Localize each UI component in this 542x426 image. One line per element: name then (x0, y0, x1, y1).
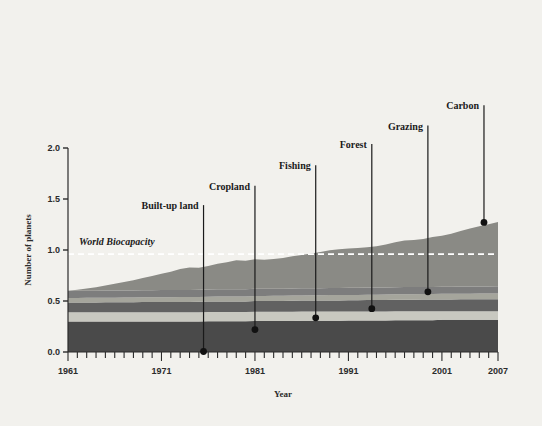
y-tick-label: 0.5 (47, 296, 60, 306)
annotation-dot-fishing (312, 314, 319, 321)
annotation-label-grazing: Grazing (388, 121, 423, 132)
annotation-dot-forest (368, 305, 375, 312)
area-band-cropland (68, 311, 498, 321)
annotation-label-fishing: Fishing (279, 160, 311, 171)
annotation-label-built-up-land: Built-up land (142, 200, 199, 211)
x-tick-label: 1991 (338, 366, 358, 376)
chart-background (0, 0, 542, 426)
y-tick-label: 1.0 (47, 245, 60, 255)
annotation-label-forest: Forest (340, 139, 368, 150)
figure-canvas: World Biocapacity 0.00.51.01.52.01961197… (0, 0, 542, 426)
world-biocapacity-label: World Biocapacity (79, 236, 155, 247)
x-tick-label: 1971 (151, 366, 171, 376)
annotation-label-carbon: Carbon (446, 100, 479, 111)
x-axis-title: Year (274, 389, 292, 399)
annotation-dot-cropland (252, 326, 259, 333)
ecological-footprint-area-chart: World Biocapacity 0.00.51.01.52.01961197… (0, 0, 542, 426)
x-tick-label: 2001 (432, 366, 452, 376)
x-tick-label: 1961 (58, 366, 78, 376)
y-tick-label: 2.0 (47, 143, 60, 153)
y-tick-label: 1.5 (47, 194, 60, 204)
y-tick-label: 0.0 (47, 347, 60, 357)
annotation-dot-carbon (481, 219, 488, 226)
y-axis-title: Number of planets (23, 214, 33, 286)
annotation-label-cropland: Cropland (209, 181, 250, 192)
area-band-built-up-land (68, 320, 498, 352)
x-tick-label: 1981 (245, 366, 265, 376)
annotation-dot-grazing (424, 288, 431, 295)
annotation-dot-built-up-land (200, 348, 207, 355)
x-tick-label: 2007 (488, 366, 508, 376)
